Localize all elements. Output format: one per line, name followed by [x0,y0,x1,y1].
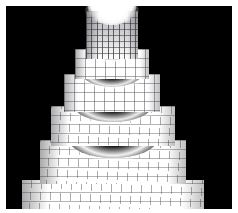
figure-canvas [0,0,238,213]
tier-summit-column [86,11,138,59]
tier-terrace-2 [40,140,186,184]
surface-plot-scene [6,6,232,209]
tier-terrace-4 [64,74,160,112]
plot-axes-area[interactable] [6,6,232,209]
tier-terrace-3 [51,106,175,146]
